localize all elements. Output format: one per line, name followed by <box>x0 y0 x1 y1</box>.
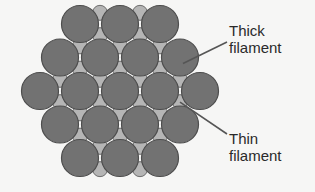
thick-filament <box>142 140 179 177</box>
thick-filament <box>62 140 99 177</box>
thick-filament <box>162 39 199 76</box>
filament-lattice-diagram: Thick filament Thin filament <box>0 0 315 192</box>
thin-filament-label: Thin filament <box>229 130 282 164</box>
thick-filament <box>82 106 119 143</box>
thick-filament <box>102 73 139 110</box>
thick-filament <box>182 73 219 110</box>
thick-filament-label: Thick filament <box>229 22 282 56</box>
thick-filament <box>42 39 79 76</box>
thick-filaments-layer <box>22 6 219 177</box>
thick-filament <box>122 106 159 143</box>
thick-filament <box>102 6 139 43</box>
thick-filament <box>102 140 139 177</box>
thick-filament <box>142 6 179 43</box>
thick-filament <box>62 73 99 110</box>
thick-filament <box>142 73 179 110</box>
thick-filament <box>42 106 79 143</box>
thick-filament <box>62 6 99 43</box>
thick-filament <box>122 39 159 76</box>
thick-filament <box>82 39 119 76</box>
thick-filament <box>22 73 59 110</box>
